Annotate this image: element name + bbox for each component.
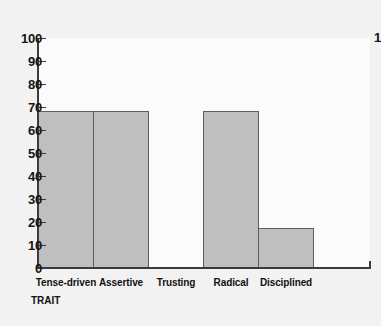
bar-assertive (93, 111, 149, 269)
y-tick-label-0: 0 (35, 262, 42, 275)
y-tick-label-40: 40 (28, 170, 42, 183)
bar-radical (203, 111, 259, 269)
y-tick-label-30: 30 (28, 193, 42, 206)
x-category-label-assertive: Assertive (93, 277, 149, 289)
y-tick-label-70: 70 (28, 101, 42, 114)
x-category-label-radical: Radical (203, 277, 259, 289)
y-tick-label-100: 100 (21, 32, 42, 45)
bar-tense-driven (38, 111, 94, 269)
y-tick-label-90: 90 (28, 55, 42, 68)
x-axis-end-tick (369, 261, 371, 269)
x-category-label-trusting: Trusting (148, 277, 204, 289)
y-tick-label-10: 10 (28, 239, 42, 252)
x-category-label-tense-driven: Tense-driven (30, 277, 102, 289)
y-tick-label-60: 60 (28, 124, 42, 137)
y-tick-label-80: 80 (28, 78, 42, 91)
bar-disciplined (258, 228, 314, 269)
clipped-right-axis-label: 1 (374, 31, 381, 44)
y-tick-label-50: 50 (28, 147, 42, 160)
bar-chart: 100 90 80 70 60 50 40 30 20 10 0 Tense-d… (0, 0, 381, 326)
x-axis-title: TRAIT (31, 295, 60, 306)
x-category-label-disciplined: Disciplined (255, 277, 317, 289)
x-axis-line (37, 267, 371, 269)
y-tick-label-20: 20 (28, 216, 42, 229)
